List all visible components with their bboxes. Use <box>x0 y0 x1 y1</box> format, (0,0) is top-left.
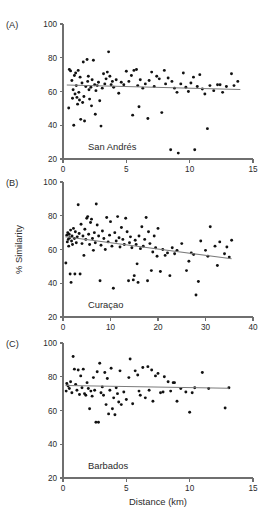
data-point <box>141 366 144 369</box>
data-point <box>128 241 131 244</box>
data-point <box>87 233 90 236</box>
data-point <box>233 84 236 87</box>
data-point <box>159 391 162 394</box>
data-point <box>216 264 219 267</box>
data-point <box>139 394 142 397</box>
data-point <box>129 358 132 361</box>
data-point <box>144 82 147 85</box>
data-point <box>144 396 147 399</box>
data-point <box>86 80 89 83</box>
data-point <box>166 251 169 254</box>
data-point <box>77 369 80 372</box>
data-point <box>160 111 163 114</box>
x-tick-label: 40 <box>248 323 258 332</box>
y-tick-label: 40 <box>48 279 58 288</box>
data-point <box>112 287 115 290</box>
data-point <box>164 82 167 85</box>
data-point <box>97 81 100 84</box>
data-point <box>105 403 108 406</box>
y-tick-label: 80 <box>48 54 58 63</box>
data-point <box>158 77 161 80</box>
data-point <box>146 365 149 368</box>
data-point <box>191 391 194 394</box>
data-point <box>66 240 69 243</box>
data-point <box>133 274 136 277</box>
data-point <box>94 113 97 116</box>
data-point <box>102 394 105 397</box>
data-point <box>206 127 209 130</box>
data-point <box>198 73 201 76</box>
data-point <box>221 91 224 94</box>
data-point <box>136 262 139 265</box>
data-point <box>108 389 111 392</box>
data-point <box>96 224 99 227</box>
data-point <box>192 76 195 79</box>
panel-site-label: Curaçao <box>88 299 123 310</box>
data-point <box>77 203 80 206</box>
data-point <box>173 381 176 384</box>
data-point <box>102 72 105 75</box>
data-point <box>82 61 85 64</box>
data-point <box>180 242 183 245</box>
data-point <box>148 79 151 82</box>
x-tick-label: 15 <box>248 165 258 174</box>
data-point <box>82 254 85 257</box>
data-point <box>99 279 102 282</box>
data-point <box>171 246 174 249</box>
data-point <box>91 78 94 81</box>
data-point <box>91 395 94 398</box>
data-point <box>86 381 89 384</box>
panel-site-label: Barbados <box>88 460 128 471</box>
data-point <box>65 382 68 385</box>
y-tick-label: 60 <box>48 246 58 255</box>
data-point <box>188 411 191 414</box>
data-point <box>119 369 122 372</box>
data-point <box>71 235 74 238</box>
data-point <box>82 95 85 98</box>
data-point <box>111 407 114 410</box>
data-point <box>105 77 108 80</box>
data-point <box>92 249 95 252</box>
data-point <box>135 243 138 246</box>
x-tick-label: 0 <box>61 323 66 332</box>
data-point <box>115 78 118 81</box>
y-tick-label: 20 <box>48 474 58 483</box>
data-point <box>106 377 109 380</box>
data-point <box>111 80 114 83</box>
data-point <box>176 400 179 403</box>
data-point <box>71 97 74 100</box>
data-point <box>125 398 128 401</box>
data-point <box>197 280 200 283</box>
x-tick-label: 30 <box>201 323 211 332</box>
data-point <box>92 376 95 379</box>
data-point <box>157 227 160 230</box>
data-point <box>93 231 96 234</box>
data-point <box>146 117 149 120</box>
y-tick-label: 80 <box>48 212 58 221</box>
y-tick-label: 100 <box>43 20 57 29</box>
data-point <box>162 390 165 393</box>
data-point <box>167 77 170 80</box>
x-axis-title: Distance (km) <box>129 496 187 507</box>
data-point <box>138 235 141 238</box>
data-point <box>230 239 233 242</box>
data-point <box>87 75 90 78</box>
data-point <box>150 71 153 74</box>
data-point <box>95 202 98 205</box>
data-point <box>88 407 91 410</box>
data-point <box>88 98 91 101</box>
data-point <box>153 235 156 238</box>
data-point <box>155 75 158 78</box>
data-point <box>218 240 221 243</box>
data-point <box>76 103 79 106</box>
data-point <box>71 243 74 246</box>
panel-letter: (A) <box>6 20 18 30</box>
data-point <box>173 252 176 255</box>
data-point <box>113 413 116 416</box>
data-point <box>127 376 130 379</box>
data-point <box>68 387 71 390</box>
data-point <box>182 71 185 74</box>
data-point <box>110 367 113 370</box>
data-point <box>132 278 135 281</box>
data-point <box>89 86 92 89</box>
